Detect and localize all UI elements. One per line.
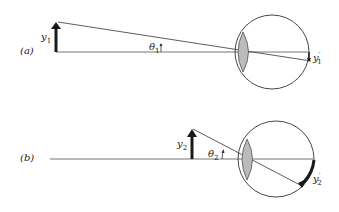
angle-label-a: θ1 [149,42,160,55]
lens-b [242,139,253,180]
angle-arrowhead-b [222,149,225,153]
panel-a [51,15,311,89]
lens-a [238,32,249,72]
image-label-b-sub: 2 [317,179,321,187]
object-label-b: y2 [177,139,187,152]
angle-label-b-sub: 2 [214,154,218,162]
angle-label-b: θ2 [208,149,219,162]
image-label-a: y′1 [313,52,322,66]
angle-label-a-sub: 1 [155,47,159,55]
panel-b [50,121,314,197]
image-label-b: y′2 [313,173,322,187]
angle-arrowhead-a [160,43,163,46]
ray-a [58,22,311,61]
image-label-a-sub: 1 [317,58,321,66]
panel-label-a: (a) [20,46,34,56]
object-label-a-sub: 1 [47,37,51,45]
object-label-b-sub: 2 [183,144,187,152]
object-label-a: y1 [41,32,51,45]
object-arrowhead-a [51,22,61,29]
image-arrowhead-b [298,178,308,188]
panel-label-b: (b) [20,153,34,163]
